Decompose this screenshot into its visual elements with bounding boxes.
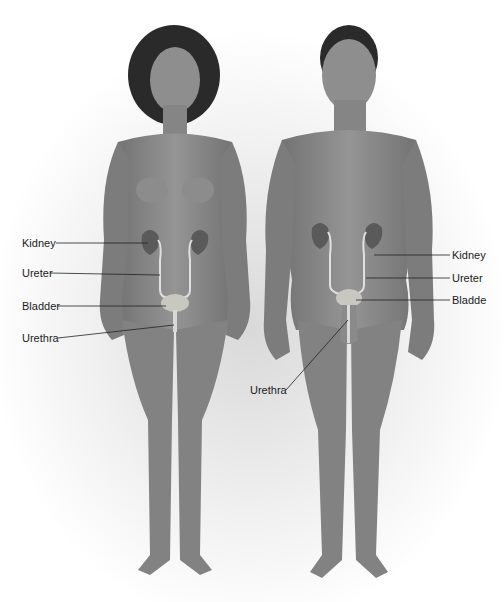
label-male-urethra: Urethra xyxy=(250,384,287,396)
label-male-kidney: Kidney xyxy=(452,249,486,261)
male-left-leg xyxy=(298,320,347,578)
anatomy-figures xyxy=(0,0,504,602)
male-right-arm xyxy=(402,140,434,360)
female-left-leg xyxy=(122,320,174,575)
label-female-ureter: Ureter xyxy=(22,267,53,279)
male-right-leg xyxy=(351,320,402,578)
male-urethra xyxy=(347,305,350,343)
female-bladder xyxy=(161,294,189,312)
label-male-ureter: Ureter xyxy=(452,272,483,284)
label-female-kidney: Kidney xyxy=(22,237,56,249)
male-figure xyxy=(264,25,435,578)
label-female-bladder: Bladder xyxy=(22,300,60,312)
label-male-bladder: Bladde xyxy=(452,294,486,306)
diagram-canvas: Kidney Ureter Bladder Urethra Kidney Ure… xyxy=(0,0,504,602)
male-bladder xyxy=(336,289,362,307)
male-left-arm xyxy=(264,140,296,360)
female-figure xyxy=(100,25,251,575)
female-face xyxy=(150,47,200,113)
female-urethra xyxy=(173,310,177,332)
label-female-urethra: Urethra xyxy=(22,332,59,344)
female-right-leg xyxy=(176,320,228,575)
